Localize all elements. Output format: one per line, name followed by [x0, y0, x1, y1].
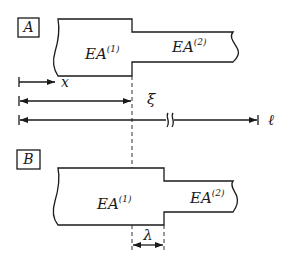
lambda-label: λ — [142, 226, 153, 244]
xi-dimension-arrow — [19, 96, 131, 106]
ell-label: ℓ — [268, 111, 274, 129]
bar-step-diagram: A EA(1) EA(2) x ξ ℓ B EA(1) EA(2) — [0, 0, 290, 263]
panel-a-ea2: EA(2) — [171, 37, 207, 56]
panel-b-label: B — [22, 151, 33, 167]
panel-b-ea2: EA(2) — [189, 188, 225, 207]
panel-a-label: A — [21, 19, 33, 35]
x-label: x — [61, 74, 69, 90]
panel-a-label-box: A — [18, 18, 39, 37]
ell-dimension-arrow — [19, 113, 258, 127]
panel-b-ea1: EA(1) — [96, 194, 132, 213]
panel-a-bar — [54, 19, 239, 76]
xi-label: ξ — [147, 90, 156, 108]
panel-a-ea1: EA(1) — [84, 44, 120, 63]
panel-b-label-box: B — [17, 150, 40, 169]
x-coordinate-arrow — [19, 77, 55, 87]
